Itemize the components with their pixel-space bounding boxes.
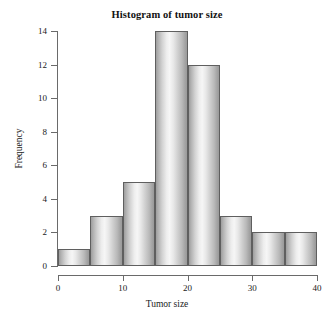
y-axis-tick xyxy=(51,165,57,166)
y-axis-tick xyxy=(51,266,57,267)
x-axis-title: Tumor size xyxy=(0,299,334,309)
x-axis-tick xyxy=(188,275,189,281)
y-axis-tick xyxy=(51,65,57,66)
y-axis-tick xyxy=(51,132,57,133)
plot-area xyxy=(58,31,317,266)
histogram-figure: Histogram of tumor size 02468101214 0102… xyxy=(0,0,334,324)
histogram-bar xyxy=(123,182,155,266)
x-axis-tick-label: 20 xyxy=(183,283,192,293)
x-axis-tick-label: 30 xyxy=(248,283,257,293)
y-axis-tick xyxy=(51,31,57,32)
x-axis-tick xyxy=(58,275,59,281)
histogram-bar xyxy=(252,232,284,266)
histogram-bar xyxy=(90,216,122,266)
histogram-bar xyxy=(155,31,187,266)
histogram-bar xyxy=(220,216,252,266)
y-axis-tick xyxy=(51,199,57,200)
x-axis-tick-label: 10 xyxy=(118,283,127,293)
y-axis-line xyxy=(57,31,58,267)
y-axis-tick xyxy=(51,98,57,99)
chart-title: Histogram of tumor size xyxy=(0,9,334,20)
x-axis-tick xyxy=(252,275,253,281)
x-axis-tick-label: 0 xyxy=(56,283,61,293)
histogram-bar xyxy=(58,249,90,266)
histogram-bar xyxy=(285,232,317,266)
x-axis-tick-label: 40 xyxy=(313,283,322,293)
y-axis-title: Frequency xyxy=(14,31,28,266)
x-axis-tick xyxy=(317,275,318,281)
histogram-bar xyxy=(188,65,220,266)
x-axis-tick xyxy=(123,275,124,281)
y-axis-tick xyxy=(51,232,57,233)
